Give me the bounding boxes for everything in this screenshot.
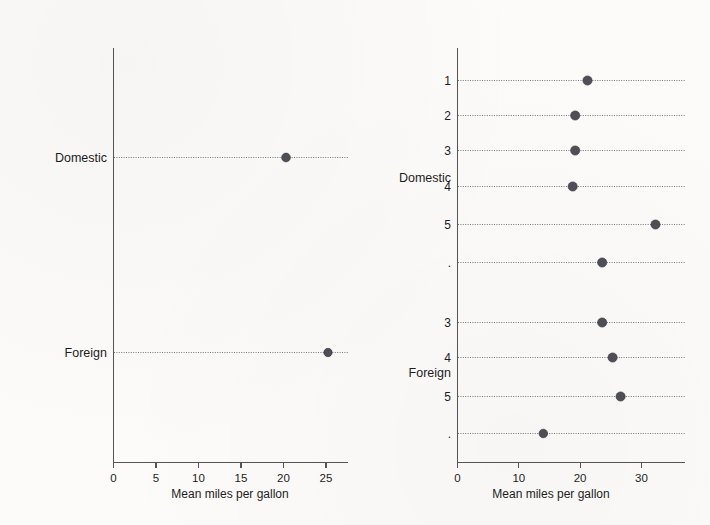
right-xtick-label-20: 20 (574, 472, 587, 484)
left-xtick-label-0: 0 (110, 472, 116, 484)
left-xtick-label-20: 20 (277, 472, 290, 484)
right-row-label-10: . (448, 427, 451, 441)
right-row-label-6: . (448, 256, 451, 270)
right-row-2: 2 (444, 109, 685, 123)
right-row-label-9: 5 (444, 390, 451, 404)
right-row-8: 4 (444, 351, 685, 365)
right-row-label-1: 1 (444, 74, 451, 88)
right-row-4: 4 (444, 180, 685, 194)
right-row-5: 5 (444, 218, 685, 232)
left-row-foreign: Foreign (65, 346, 348, 360)
left-xtick-label-10: 10 (192, 472, 205, 484)
right-data-point-6[interactable] (598, 258, 607, 267)
right-row-label-8: 4 (444, 351, 451, 365)
left-chart-panel: 0 5 10 15 20 25 Mean miles per gallon Do… (0, 0, 355, 525)
right-data-point-4[interactable] (568, 182, 577, 191)
left-category-label-domestic: Domestic (55, 151, 107, 165)
right-data-point-7[interactable] (598, 318, 607, 327)
left-xtick-label-25: 25 (320, 472, 333, 484)
right-row-1: 1 (444, 74, 685, 88)
right-data-point-5[interactable] (651, 220, 660, 229)
figure-canvas: 0 5 10 15 20 25 Mean miles per gallon Do… (0, 0, 710, 525)
right-group-label-domestic: Domestic (399, 171, 451, 185)
left-category-label-foreign: Foreign (65, 346, 107, 360)
right-row-label-2: 2 (444, 109, 451, 123)
right-xtick-label-10: 10 (512, 472, 525, 484)
right-row-3: 3 (444, 144, 685, 158)
right-row-label-7: 3 (444, 316, 451, 330)
left-plot-svg: 0 5 10 15 20 25 Mean miles per gallon Do… (0, 0, 355, 525)
right-row-label-5: 5 (444, 218, 451, 232)
right-data-point-1[interactable] (583, 76, 592, 85)
right-plot-svg: 0 10 20 30 Mean miles per gallon Domesti… (355, 0, 710, 525)
left-xtick-label-15: 15 (235, 472, 248, 484)
left-data-point-foreign[interactable] (324, 348, 332, 356)
right-xtick-label-30: 30 (635, 472, 648, 484)
right-data-point-9[interactable] (616, 392, 625, 401)
right-row-label-3: 3 (444, 144, 451, 158)
right-row-7: 3 (444, 316, 685, 330)
right-x-axis-title: Mean miles per gallon (492, 487, 609, 501)
right-row-10: . (448, 427, 685, 441)
right-group-label-foreign: Foreign (409, 366, 451, 380)
right-data-point-2[interactable] (571, 111, 580, 120)
right-row-9: 5 (444, 390, 685, 404)
right-row-label-4: 4 (444, 180, 451, 194)
left-data-point-domestic[interactable] (282, 153, 291, 162)
right-xtick-label-0: 0 (454, 472, 460, 484)
left-row-domestic: Domestic (55, 151, 348, 165)
left-x-axis-title: Mean miles per gallon (171, 487, 288, 501)
right-data-point-3[interactable] (571, 146, 580, 155)
right-data-point-8[interactable] (608, 353, 617, 362)
right-row-6: . (448, 256, 685, 270)
right-chart-panel: 0 10 20 30 Mean miles per gallon Domesti… (355, 0, 710, 525)
right-data-point-10[interactable] (539, 429, 548, 438)
left-xtick-label-5: 5 (153, 472, 159, 484)
